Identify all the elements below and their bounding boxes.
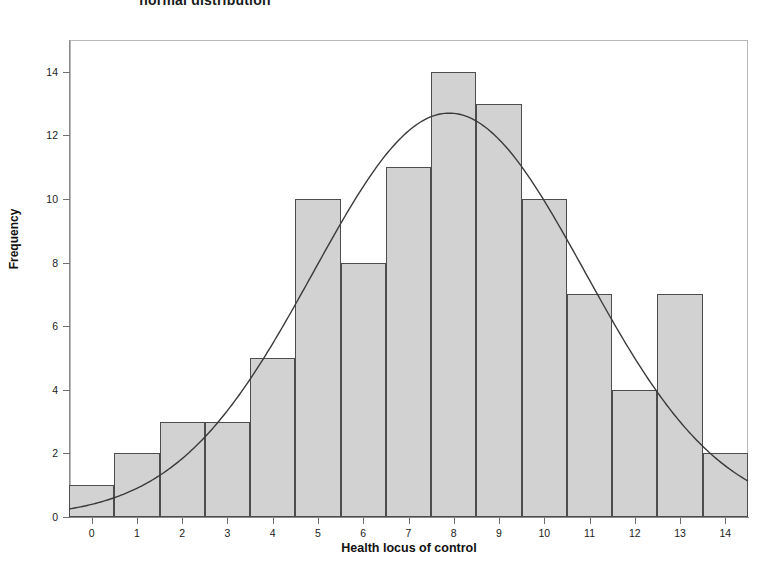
histogram-bar: [69, 485, 114, 517]
histogram-bar: [522, 199, 567, 517]
histogram-bar: [205, 422, 250, 517]
histogram-bars: [0, 0, 768, 565]
histogram-bar: [431, 72, 476, 517]
histogram-bar: [386, 167, 431, 517]
histogram-bar: [341, 263, 386, 517]
histogram-bar: [114, 453, 159, 517]
histogram-bar: [612, 390, 657, 517]
histogram-bar: [567, 294, 612, 517]
histogram-bar: [295, 199, 340, 517]
histogram-bar: [250, 358, 295, 517]
histogram-bar: [160, 422, 205, 517]
histogram-bar: [703, 453, 748, 517]
chart-root: normal distribution 02468101214 01234567…: [0, 0, 768, 565]
histogram-bar: [476, 104, 521, 517]
histogram-bar: [657, 294, 702, 517]
